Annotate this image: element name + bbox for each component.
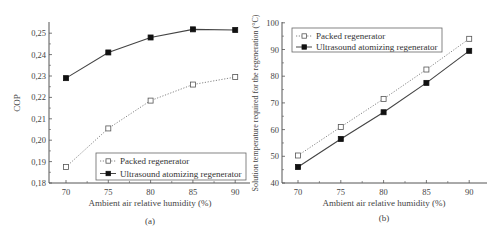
data-point bbox=[148, 98, 153, 103]
x-tick-label: 75 bbox=[337, 187, 346, 197]
x-tick-label: 90 bbox=[465, 187, 474, 197]
data-point bbox=[190, 82, 195, 87]
data-point bbox=[190, 27, 195, 32]
chart-a-cop: 0,180,190,200,210,220,230,240,2570758085… bbox=[12, 22, 250, 226]
legend-label: Packed regenerator bbox=[120, 156, 189, 166]
data-point bbox=[338, 136, 343, 141]
figure-caption: (b) bbox=[379, 213, 390, 223]
y-tick-label: 0,23 bbox=[31, 71, 46, 81]
y-tick-label: 90 bbox=[271, 45, 280, 55]
data-point bbox=[381, 96, 386, 101]
y-tick-label: 50 bbox=[271, 151, 280, 161]
legend-label: Ultrasound atomizing regenerator bbox=[316, 42, 437, 52]
data-point bbox=[106, 50, 111, 55]
data-point bbox=[233, 27, 238, 32]
legend-marker-icon bbox=[302, 45, 306, 49]
x-tick-label: 90 bbox=[231, 187, 240, 197]
legend: Packed regeneratorUltrasound atomizing r… bbox=[96, 153, 246, 180]
y-tick-label: 0,19 bbox=[31, 157, 46, 167]
y-tick-label: 40 bbox=[271, 178, 280, 188]
data-point bbox=[381, 110, 386, 115]
y-tick-label: 0,24 bbox=[31, 50, 47, 60]
data-point bbox=[233, 75, 238, 80]
y-tick-label: 0,20 bbox=[31, 135, 46, 145]
y-axis-title: COP bbox=[12, 94, 22, 112]
data-point bbox=[424, 67, 429, 72]
figure-caption: (a) bbox=[145, 216, 155, 226]
legend-marker-icon bbox=[302, 34, 306, 38]
y-tick-label: 80 bbox=[271, 71, 280, 81]
x-tick-label: 80 bbox=[379, 187, 388, 197]
data-point bbox=[338, 124, 343, 129]
figure: 0,180,190,200,210,220,230,240,2570758085… bbox=[0, 0, 501, 237]
y-tick-label: 0,25 bbox=[31, 28, 46, 38]
legend-label: Ultrasound atomizing regenerator bbox=[120, 169, 241, 179]
legend-label: Packed regenerator bbox=[316, 31, 385, 41]
y-tick-label: 100 bbox=[266, 18, 279, 28]
y-tick-label: 0,22 bbox=[31, 92, 46, 102]
data-point bbox=[467, 48, 472, 53]
chart-b-solution-temperature: 4050607080901007075808590Ambient air rel… bbox=[251, 14, 487, 223]
x-axis-title: Ambient air relative humidity (%) bbox=[323, 198, 446, 208]
x-tick-label: 75 bbox=[104, 187, 113, 197]
legend-marker-icon bbox=[106, 159, 110, 163]
data-point bbox=[296, 153, 301, 158]
y-axis-title: Solution temperature required for the re… bbox=[251, 14, 260, 191]
y-tick-label: 0,18 bbox=[31, 178, 46, 188]
data-point bbox=[424, 80, 429, 85]
x-tick-label: 80 bbox=[146, 187, 155, 197]
x-tick-label: 85 bbox=[422, 187, 431, 197]
data-point bbox=[467, 36, 472, 41]
data-point bbox=[64, 76, 69, 81]
data-point bbox=[296, 164, 301, 169]
y-tick-label: 70 bbox=[271, 98, 280, 108]
x-tick-label: 70 bbox=[62, 187, 71, 197]
data-point bbox=[106, 126, 111, 131]
series-line-1 bbox=[298, 51, 469, 167]
y-tick-label: 0,21 bbox=[31, 114, 46, 124]
x-tick-label: 70 bbox=[294, 187, 303, 197]
data-point bbox=[148, 35, 153, 40]
data-point bbox=[64, 164, 69, 169]
legend-marker-icon bbox=[106, 171, 110, 175]
x-axis-title: Ambient air relative humidity (%) bbox=[89, 198, 212, 208]
y-tick-label: 60 bbox=[271, 125, 280, 135]
x-tick-label: 85 bbox=[189, 187, 198, 197]
legend: Packed regeneratorUltrasound atomizing r… bbox=[292, 28, 442, 52]
